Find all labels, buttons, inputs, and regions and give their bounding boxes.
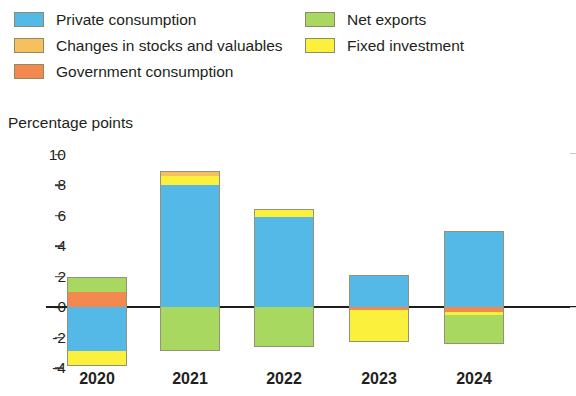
bar-segment bbox=[67, 292, 127, 307]
y-axis-tick-mark bbox=[55, 184, 63, 186]
x-axis-tick-label: 2022 bbox=[244, 370, 324, 388]
bar-2021[interactable] bbox=[160, 0, 220, 396]
x-axis-tick-label: 2024 bbox=[434, 370, 514, 388]
edge-mark bbox=[570, 153, 576, 154]
bar-segment bbox=[254, 209, 314, 217]
bar-segment bbox=[67, 277, 127, 292]
x-axis-tick-label: 2023 bbox=[339, 370, 419, 388]
bar-segment bbox=[254, 307, 314, 347]
bar-2020[interactable] bbox=[67, 0, 127, 396]
edge-mark bbox=[570, 307, 576, 308]
bar-2022[interactable] bbox=[254, 0, 314, 396]
bar-segment bbox=[160, 307, 220, 351]
y-axis-tick-mark bbox=[55, 276, 63, 278]
x-axis-tick-label: 2021 bbox=[150, 370, 230, 388]
bar-segment bbox=[444, 315, 504, 344]
bar-2023[interactable] bbox=[349, 0, 409, 396]
y-axis-tick-mark bbox=[55, 337, 63, 339]
y-axis-tick-mark bbox=[55, 245, 63, 247]
bar-segment bbox=[160, 176, 220, 185]
bar-segment bbox=[160, 185, 220, 307]
bar-segment bbox=[67, 351, 127, 366]
bar-segment bbox=[444, 231, 504, 307]
chart-plot-area: 1086420-2-4 20202021202220232024 bbox=[0, 0, 576, 396]
y-axis-tick-mark bbox=[55, 367, 63, 369]
bar-segment bbox=[349, 275, 409, 307]
x-axis-tick-label: 2020 bbox=[57, 370, 137, 388]
bar-2024[interactable] bbox=[444, 0, 504, 396]
bar-segment bbox=[254, 217, 314, 307]
y-axis-tick-mark bbox=[55, 215, 63, 217]
bar-segment bbox=[349, 310, 409, 342]
y-axis-tick-mark bbox=[55, 154, 63, 156]
bar-segment bbox=[67, 307, 127, 351]
bar-segment bbox=[160, 171, 220, 176]
